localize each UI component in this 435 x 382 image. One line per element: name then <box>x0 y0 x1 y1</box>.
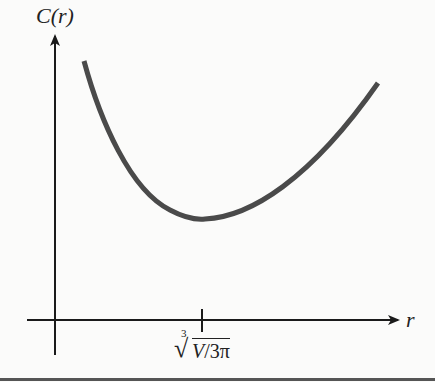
cost-function-graph <box>0 0 435 382</box>
x-axis-label: r <box>406 307 415 333</box>
bottom-divider <box>0 378 435 381</box>
radicand-denominator: /3π <box>204 340 230 362</box>
radicand-variable: V <box>192 340 204 362</box>
radical-sign-icon: √ <box>174 334 188 364</box>
cost-curve <box>84 61 378 219</box>
radicand: V/3π <box>192 338 230 362</box>
y-axis-label: C(r) <box>36 3 74 29</box>
